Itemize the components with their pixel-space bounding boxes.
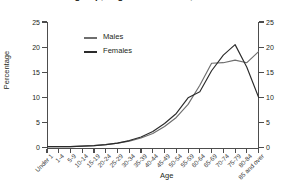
y-tick-label-left-15: 15 [25,69,40,76]
y-tick-label-left-20: 20 [25,44,40,51]
chart-title: group, England and Wales, 1997 [0,0,290,1]
x-tick-12 [188,149,189,153]
legend-label-males: Males [103,32,123,41]
y-tick-right-10 [259,97,264,98]
x-tick-0 [46,149,47,153]
y-tick-label-right-15: 15 [266,69,282,76]
x-tick-label-1: 1-4 [55,153,66,164]
y-tick-label-right-25: 25 [266,19,282,26]
y-tick-label-left-25: 25 [25,19,40,26]
y-tick-label-left-0: 0 [25,144,40,151]
y-tick-label-right-5: 5 [266,119,282,126]
y-tick-right-0 [259,147,264,148]
y-tick-right-5 [259,122,264,123]
series-lines [47,22,259,148]
y-tick-label-left-5: 5 [25,119,40,126]
x-tick-4 [93,149,94,153]
x-axis-title: Age [160,172,173,180]
y-axis-title: Percentage [3,39,11,101]
x-tick-8 [140,149,141,153]
plot-area [47,22,259,148]
series-line-females [47,45,259,147]
y-tick-label-left-10: 10 [25,94,40,101]
y-tick-label-right-20: 20 [266,44,282,51]
x-tick-label-0: Under 1 [34,153,54,173]
x-tick-16 [235,149,236,153]
legend-swatch-females [84,51,97,53]
y-tick-label-right-0: 0 [266,144,282,151]
legend-label-females: Females [103,46,132,55]
legend-swatch-males [84,37,97,39]
y-tick-label-right-10: 10 [266,94,282,101]
series-line-males [47,52,259,147]
y-tick-right-20 [259,47,264,48]
chart-container: group, England and Wales, 1997 Percentag… [0,0,290,191]
y-tick-right-15 [259,72,264,73]
y-tick-right-25 [259,21,264,22]
